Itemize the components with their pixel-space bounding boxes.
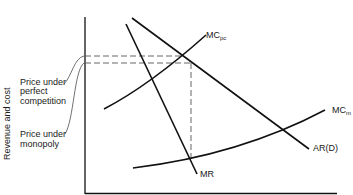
mc-pc-label: MCpc bbox=[206, 30, 226, 41]
monopoly-label-line1: Price under bbox=[20, 129, 66, 139]
economics-diagram: Revenue and cost Price under perfect com… bbox=[0, 0, 353, 195]
mr-curve bbox=[126, 24, 197, 174]
perfect-competition-leader bbox=[64, 56, 84, 84]
mr-label: MR bbox=[200, 169, 214, 179]
ar-demand-label: AR(D) bbox=[313, 143, 338, 153]
perfect-competition-label-line3: competition bbox=[20, 96, 66, 106]
perfect-competition-label-line2: perfect bbox=[20, 86, 48, 96]
mc-m-label: MCm bbox=[332, 105, 351, 116]
y-axis-label: Revenue and cost bbox=[2, 87, 12, 160]
monopoly-label-line2: monopoly bbox=[20, 139, 60, 149]
monopoly-leader bbox=[65, 63, 84, 134]
